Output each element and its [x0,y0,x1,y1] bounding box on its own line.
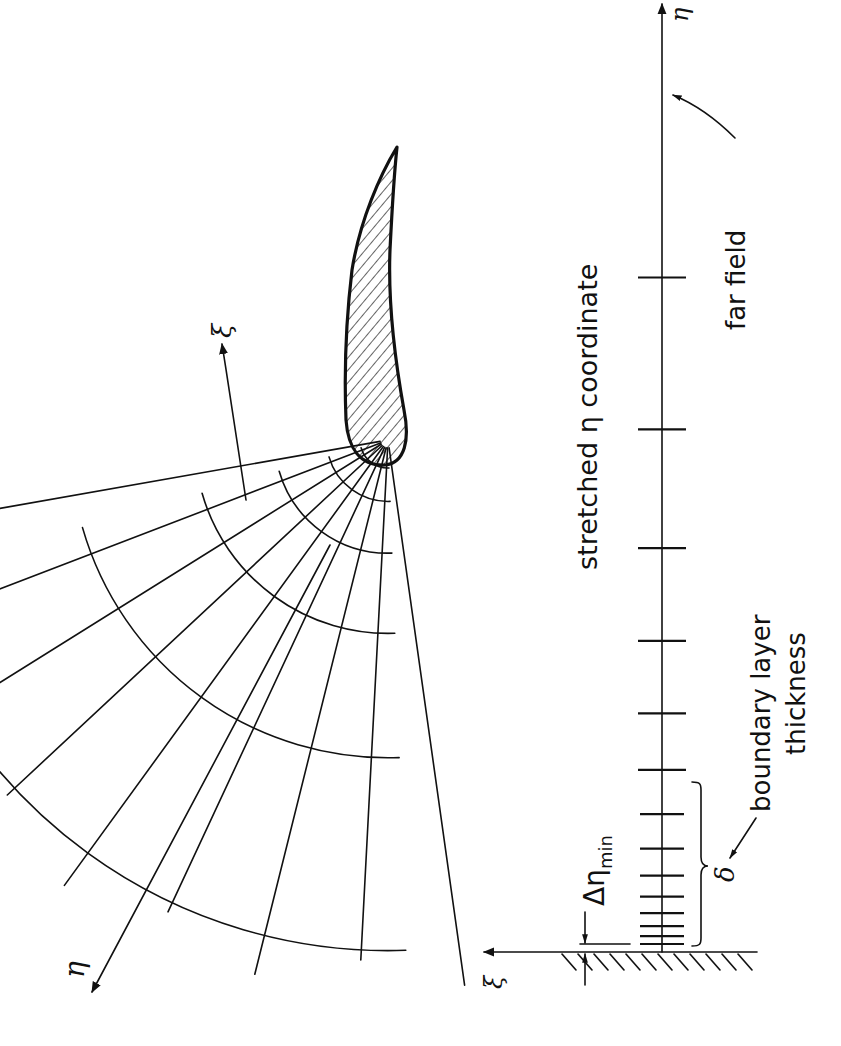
wall-hatch-mark [642,954,656,970]
wall-hatch-mark [610,954,624,970]
wall-hatch-mark [594,954,608,970]
far-field-label: far field [721,230,751,330]
grid-arc-line [0,581,406,951]
wall-hatch-mark [658,954,672,970]
delta-pointer-arrow [730,818,756,858]
wall-hatching [562,954,752,970]
wall-hatch-mark [690,954,704,970]
wall-xi-label: ξ [480,974,508,989]
delta-symbol: δ [710,866,740,882]
airfoil-body [345,147,406,465]
grid-radial-line [168,447,385,912]
grid-radial-line [0,441,380,535]
body-fitted-grid [0,441,465,985]
grid-view: ξ η [0,147,465,992]
wall-hatch-mark [562,954,576,970]
grid-radial-line [64,447,383,886]
eta-axis-label: η [58,961,91,978]
stretched-axis-view: η ξ Δηmin δ boundary layer thickness str… [480,4,811,989]
diagram-canvas: ξ η η ξ Δηmin δ boundary layer thickness [0,0,841,1046]
wall-hatch-mark [674,954,688,970]
grid-radial-line [255,448,386,974]
wall-hatch-mark [722,954,736,970]
grid-radial-line [389,448,465,985]
xi-axis-label: ξ [207,322,237,338]
eta-axis-top-label: η [666,7,694,22]
far-field-pointer-arrow [673,95,735,138]
delta-eta-min-dimension: Δηmin [578,835,630,985]
wall-hatch-mark [706,954,720,970]
grid-radial-line [361,448,388,960]
eta-axis-arrow [92,545,330,992]
grid-radial-line [0,443,381,627]
boundary-layer-brace [692,782,708,946]
boundary-layer-label: boundary layer [746,614,776,812]
wall-hatch-mark [738,954,752,970]
boundary-layer-thickness-label: thickness [781,632,811,755]
stretched-coordinate-title: stretched η coordinate [572,264,603,570]
wall-hatch-mark [626,954,640,970]
xi-axis-arrow [222,344,246,500]
delta-eta-min-label: Δηmin [578,835,616,906]
